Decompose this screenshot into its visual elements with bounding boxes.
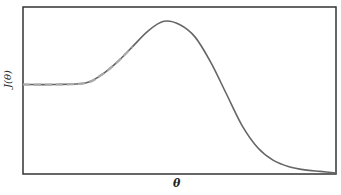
solid-curve	[23, 21, 336, 173]
dashed-curve	[23, 47, 133, 85]
y-axis-label: J(θ)	[2, 70, 13, 88]
plot-frame	[23, 7, 336, 174]
x-axis-label: θ	[173, 177, 180, 190]
chart-canvas	[0, 0, 341, 195]
